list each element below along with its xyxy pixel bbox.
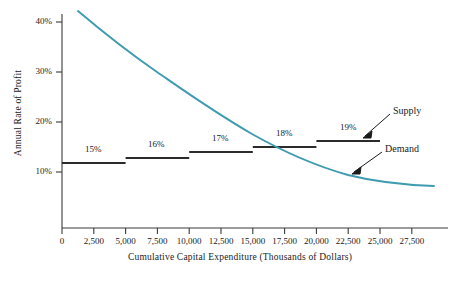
x-tick-label-0: 0 <box>52 236 72 246</box>
supply-annotation-arrow <box>363 114 390 138</box>
y-tick-marks <box>56 22 62 172</box>
chart-figure: Annual Rate of Profit Cumulative Capital… <box>0 0 454 282</box>
supply-step-label-15: 15% <box>85 144 102 154</box>
supply-step-label-19: 19% <box>340 122 357 132</box>
supply-step-series <box>62 141 380 163</box>
y-tick-label-10: 10% <box>22 166 52 176</box>
x-axis-title: Cumulative Capital Expenditure (Thousand… <box>60 252 420 262</box>
y-axis-title: Annual Rate of Profit <box>13 43 23 183</box>
supply-step-label-17: 17% <box>212 133 229 143</box>
y-tick-label-40: 40% <box>22 16 52 26</box>
x-tick-label-27500: 27,500 <box>390 236 434 246</box>
demand-annotation-arrow <box>352 152 382 174</box>
supply-step-label-16: 16% <box>148 139 165 149</box>
y-tick-label-20: 20% <box>22 116 52 126</box>
supply-series-label: Supply <box>393 105 421 116</box>
y-tick-label-30: 30% <box>22 66 52 76</box>
x-tick-marks <box>62 228 412 234</box>
supply-step-label-18: 18% <box>276 128 293 138</box>
demand-series-label: Demand <box>385 143 419 154</box>
demand-curve <box>78 11 434 186</box>
